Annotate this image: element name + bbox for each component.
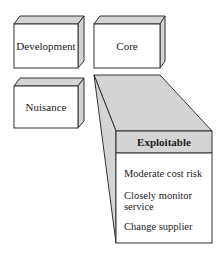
exploitable-item: Moderate cost risk: [124, 168, 212, 179]
exploitable-title: Exploitable: [116, 136, 212, 148]
nuisance-label: Nuisance: [14, 101, 78, 113]
development-label: Development: [14, 40, 78, 52]
core-label: Core: [94, 40, 160, 52]
exploitable-item: Change supplier: [124, 221, 212, 232]
exploitable-box-shape: [94, 75, 212, 243]
diagram-canvas: [0, 0, 224, 257]
exploitable-item: Closely monitor service: [124, 190, 204, 212]
